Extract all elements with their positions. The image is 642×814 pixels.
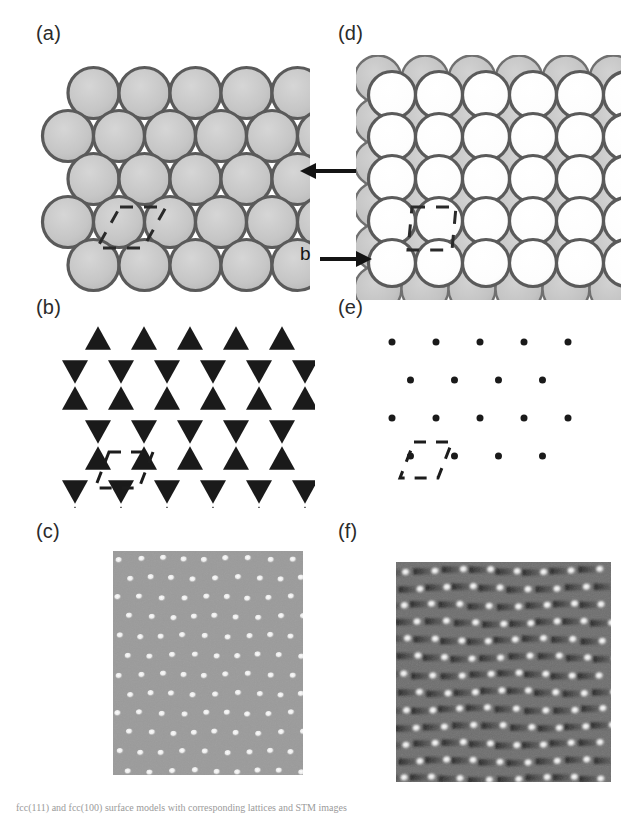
dot-marker [521,415,528,422]
triangle-down-marker [154,480,180,503]
triangle-up-marker [154,506,180,508]
stm-protrusion [189,692,196,698]
stm-protrusion [201,673,208,679]
stm-protrusion [456,705,464,713]
arrow-b-marker [318,240,378,278]
stm-protrusion [149,729,156,735]
stm-protrusion [203,710,210,716]
triangle-up-marker [269,446,295,469]
triangle-down-marker [246,480,272,503]
stm-protrusion [443,618,451,626]
sphere [119,240,170,291]
stm-protrusion [599,705,607,713]
triangle-down-marker [62,360,88,383]
triangle-up-marker [131,446,157,469]
stm-protrusion [278,613,285,619]
sphere [416,114,463,161]
stm-protrusion [515,670,523,678]
stm-protrusion [403,707,411,715]
stm-protrusion [170,731,177,737]
stm-protrusion [138,556,145,562]
triangle-down-marker [269,420,295,443]
triangle-up-marker [177,326,203,349]
stm-protrusion [138,672,145,678]
stm-streak [593,656,611,662]
dot-marker [389,339,396,346]
stm-protrusion [191,613,198,619]
stm-protrusion [127,692,134,698]
stm-protrusion [245,671,252,677]
stm-protrusion [168,690,175,696]
stm-protrusion [202,633,209,639]
triangle-up-marker [177,446,203,469]
stm-protrusion [552,689,560,697]
dot-marker [565,339,572,346]
sphere [557,72,604,119]
stm-protrusion [213,769,220,775]
stm-protrusion [460,566,468,574]
triangle-up-marker [292,506,315,508]
stm-protrusion [245,555,252,561]
stm-protrusion [401,602,409,610]
stm-protrusion [496,584,504,592]
stm-protrusion [554,758,562,766]
sphere [463,114,510,161]
stm-protrusion [416,758,424,766]
panel-d-front-layer [369,72,622,287]
stm-protrusion [201,557,208,563]
stm-streak [590,620,611,626]
stm-protrusion [441,654,449,662]
stm-protrusion [540,741,548,749]
panel-a-sphere-model [30,55,310,300]
stm-protrusion [290,673,297,679]
stm-protrusion [567,567,575,575]
panel-e-dot-lattice [370,320,620,505]
triangle-down-marker [200,360,226,383]
stm-protrusion [584,654,592,662]
stm-protrusion [136,709,143,715]
stm-protrusion [277,692,284,698]
stm-protrusion [278,729,285,735]
stm-protrusion [556,725,564,733]
stm-protrusion [287,633,294,639]
stm-protrusion [431,636,439,644]
stm-protrusion [527,620,535,628]
panel-c-stm-image [113,551,303,775]
stm-protrusion [203,593,210,599]
dot-marker [407,377,414,384]
stm-protrusion [146,653,153,659]
stm-protrusion [191,730,198,736]
stm-protrusion [169,768,176,774]
stm-protrusion [499,722,507,730]
sphere [510,72,557,119]
triangle-up-marker [269,326,295,349]
panel-f-stm-canvas [396,562,611,782]
triangle-up-marker [108,506,134,508]
triangle-down-marker [200,480,226,503]
dot-marker [539,453,546,460]
panel-d-sphere-model [356,55,621,300]
stm-protrusion [402,742,410,750]
sphere [369,114,416,161]
stm-protrusion [598,638,606,646]
stm-protrusion [246,633,253,639]
dot-marker [521,339,528,346]
stm-protrusion [213,653,220,659]
stm-protrusion [500,621,508,629]
stm-protrusion [192,651,199,657]
stm-protrusion [524,586,532,594]
panel-label-c: (c) [36,520,60,543]
sphere [221,240,272,291]
stm-protrusion [497,655,505,663]
triangle-up-marker [131,326,157,349]
stm-protrusion [487,671,495,679]
stm-protrusion [469,757,477,765]
stm-protrusion [428,600,436,608]
stm-protrusion [513,742,521,750]
stm-protrusion [255,731,262,737]
stm-protrusion [414,652,422,660]
stm-protrusion [232,730,239,736]
stm-protrusion [265,711,272,717]
sphere [416,156,463,203]
stm-protrusion [265,595,272,601]
